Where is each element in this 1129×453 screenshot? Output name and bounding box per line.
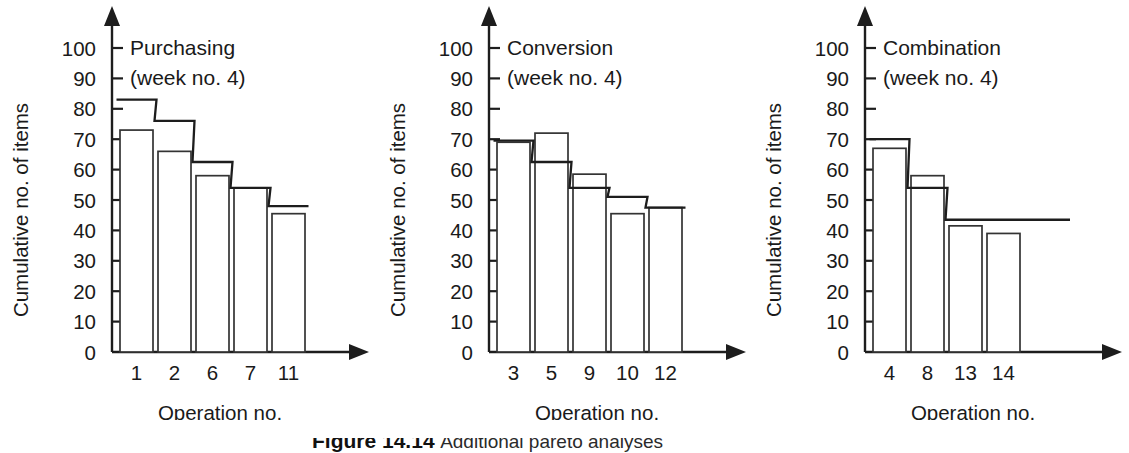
y-tick-label: 40 — [826, 219, 849, 242]
x-tick-label: 12 — [654, 361, 677, 384]
y-tick-label: 80 — [826, 97, 849, 120]
y-tick-label: 30 — [73, 249, 96, 272]
chart-panel-purchasing: 0102030405060708090100Cumulative no. of … — [0, 0, 376, 420]
y-tick-label: 100 — [62, 37, 96, 60]
x-tick-label: 10 — [616, 361, 639, 384]
y-tick-label: 50 — [826, 189, 849, 212]
y-tick-label: 40 — [450, 219, 473, 242]
x-tick-label: 2 — [169, 361, 180, 384]
y-tick-label: 50 — [450, 189, 473, 212]
y-tick-label: 90 — [73, 67, 96, 90]
x-axis-arrow-icon — [1102, 344, 1122, 360]
x-tick-label: 3 — [508, 361, 519, 384]
x-axis-arrow-icon — [349, 344, 369, 360]
chart-svg: 0102030405060708090100Cumulative no. of … — [377, 0, 753, 420]
y-axis-title: Cumulative no. of items — [9, 103, 32, 317]
bars — [497, 133, 682, 352]
y-tick-label: 30 — [450, 249, 473, 272]
y-tick-label: 40 — [73, 219, 96, 242]
y-tick-label: 20 — [73, 280, 96, 303]
y-tick-label: 80 — [73, 97, 96, 120]
y-tick-label: 50 — [73, 189, 96, 212]
y-axis-ticks: 0102030405060708090100 — [62, 37, 123, 364]
x-tick-label: 4 — [884, 361, 895, 384]
x-tick-label: 5 — [546, 361, 557, 384]
y-tick-label: 10 — [826, 310, 849, 333]
chart-subtitle: (week no. 4) — [130, 66, 246, 89]
bar — [272, 214, 305, 352]
bar — [120, 130, 153, 352]
chart-title: Combination — [883, 36, 1001, 59]
y-tick-label: 20 — [450, 280, 473, 303]
bars — [873, 148, 1020, 352]
x-axis-title: Operation no. — [535, 401, 659, 420]
y-tick-label: 10 — [450, 310, 473, 333]
y-axis-title: Cumulative no. of items — [386, 103, 409, 317]
y-tick-label: 90 — [826, 67, 849, 90]
bar — [987, 233, 1020, 352]
figure-caption-text: Additional pareto analyses — [440, 438, 663, 452]
chart-panel-conversion: 0102030405060708090100Cumulative no. of … — [377, 0, 753, 420]
y-tick-label: 20 — [826, 280, 849, 303]
y-tick-label: 80 — [450, 97, 473, 120]
chart-title-block: Combination(week no. 4) — [883, 36, 1001, 89]
bar — [535, 133, 568, 352]
y-tick-label: 0 — [838, 341, 849, 364]
y-axis-arrow-icon — [104, 6, 120, 26]
bar — [196, 176, 229, 352]
chart-title-block: Purchasing(week no. 4) — [130, 36, 246, 89]
pareto-figure: 0102030405060708090100Cumulative no. of … — [0, 0, 1129, 453]
x-tick-label: 1 — [131, 361, 142, 384]
bar — [873, 148, 906, 352]
x-axis-title: Operation no. — [158, 401, 282, 420]
bar — [911, 176, 944, 352]
y-axis-title: Cumulative no. of items — [762, 103, 785, 317]
bar — [497, 142, 530, 352]
x-axis-ticks: 481314 — [884, 361, 1015, 384]
bar — [611, 214, 644, 352]
y-tick-label: 100 — [439, 37, 473, 60]
x-tick-label: 7 — [245, 361, 256, 384]
chart-subtitle: (week no. 4) — [507, 66, 623, 89]
y-tick-label: 70 — [73, 128, 96, 151]
y-tick-label: 100 — [815, 37, 849, 60]
y-tick-label: 10 — [73, 310, 96, 333]
y-tick-label: 60 — [450, 158, 473, 181]
chart-svg: 0102030405060708090100Cumulative no. of … — [753, 0, 1129, 420]
bar — [158, 151, 191, 352]
bar — [573, 174, 606, 352]
chart-title: Purchasing — [130, 36, 235, 59]
figure-caption-label: Figure 14.14 — [312, 438, 435, 452]
x-tick-label: 8 — [922, 361, 933, 384]
chart-title: Conversion — [507, 36, 613, 59]
y-tick-label: 60 — [826, 158, 849, 181]
y-axis-ticks: 0102030405060708090100 — [439, 37, 500, 364]
bars — [120, 130, 305, 352]
bar — [949, 226, 982, 352]
bar — [234, 188, 267, 352]
y-tick-label: 90 — [450, 67, 473, 90]
figure-caption: Figure 14.14 Additional pareto analyses — [0, 438, 1129, 453]
x-tick-label: 13 — [954, 361, 977, 384]
y-tick-label: 70 — [450, 128, 473, 151]
x-tick-label: 9 — [584, 361, 595, 384]
y-axis-ticks: 0102030405060708090100 — [815, 37, 876, 364]
bar — [649, 208, 682, 352]
y-axis-arrow-icon — [481, 6, 497, 26]
x-axis-arrow-icon — [726, 344, 746, 360]
chart-panel-combination: 0102030405060708090100Cumulative no. of … — [753, 0, 1129, 420]
y-tick-label: 0 — [462, 341, 473, 364]
x-tick-label: 6 — [207, 361, 218, 384]
y-axis-arrow-icon — [857, 6, 873, 26]
x-tick-label: 14 — [992, 361, 1015, 384]
x-tick-label: 11 — [278, 361, 299, 384]
x-axis-ticks: 126711 — [131, 361, 299, 384]
x-axis-title: Operation no. — [911, 401, 1035, 420]
y-tick-label: 30 — [826, 249, 849, 272]
chart-title-block: Conversion(week no. 4) — [507, 36, 623, 89]
y-tick-label: 70 — [826, 128, 849, 151]
y-tick-label: 60 — [73, 158, 96, 181]
y-tick-label: 0 — [85, 341, 96, 364]
chart-svg: 0102030405060708090100Cumulative no. of … — [0, 0, 376, 420]
chart-subtitle: (week no. 4) — [883, 66, 999, 89]
